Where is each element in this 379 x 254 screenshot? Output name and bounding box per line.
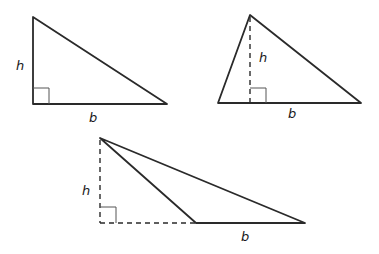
triangle-area-diagram: h b h b h b [0, 0, 379, 254]
obtuse-triangle: h b [82, 138, 305, 244]
base-label: b [89, 110, 97, 125]
height-label: h [259, 50, 267, 65]
right-angle-marker [100, 207, 116, 223]
base-label: b [241, 229, 249, 244]
right-angle-marker [250, 88, 266, 103]
height-label: h [16, 58, 24, 73]
height-label: h [82, 183, 90, 198]
right-triangle: h b [16, 17, 167, 125]
acute-triangle: h b [218, 15, 361, 121]
base-label: b [288, 106, 296, 121]
obtuse-triangle-outline [100, 138, 305, 223]
right-angle-marker [33, 88, 49, 104]
right-triangle-outline [33, 17, 167, 104]
acute-triangle-outline [218, 15, 361, 103]
